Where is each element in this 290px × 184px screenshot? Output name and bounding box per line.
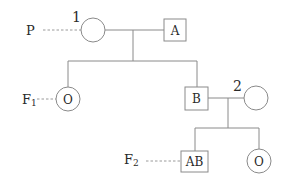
blood-type-ab: AB xyxy=(185,155,204,169)
blood-type-o-f2: O xyxy=(254,155,264,169)
individual-number-1: 1 xyxy=(72,9,81,25)
female-1 xyxy=(81,18,105,42)
generation-label-p: P xyxy=(26,23,35,38)
svg-text:P: P xyxy=(26,23,35,38)
generation-label-f1: F1 xyxy=(22,92,37,108)
blood-type-o-f1: O xyxy=(63,93,73,107)
female-2 xyxy=(244,86,268,110)
pedigree-chart: P 1 A F1 O B 2 F2 AB O xyxy=(0,0,290,184)
generation-label-f2: F2 xyxy=(124,152,139,168)
blood-type-a: A xyxy=(170,24,180,38)
individual-number-2: 2 xyxy=(233,78,242,94)
blood-type-b: B xyxy=(192,92,201,106)
